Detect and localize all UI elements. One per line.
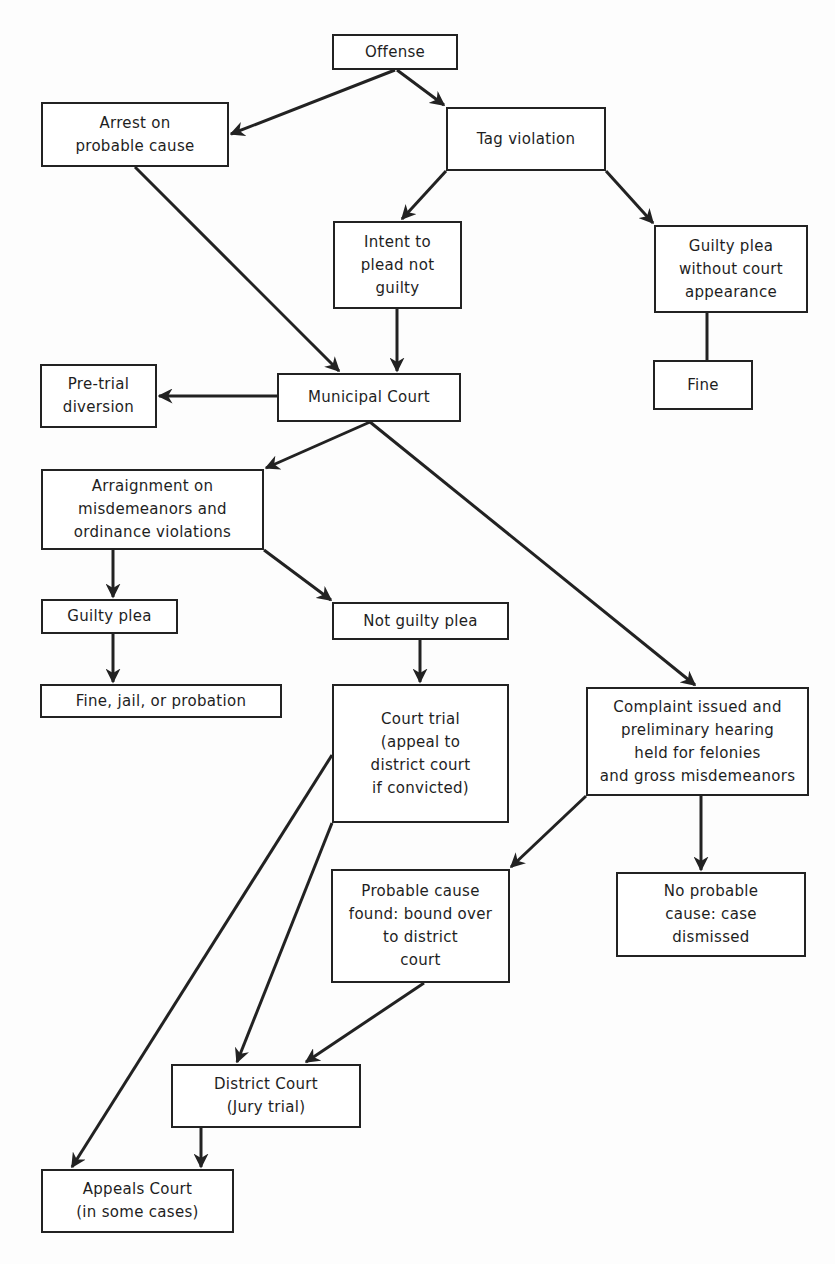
node-fine-jail-or-probation: Fine, jail, or probation — [40, 684, 282, 718]
node-no-probable-cause: No probable cause: case dismissed — [616, 872, 806, 957]
node-tag-violation: Tag violation — [446, 107, 606, 171]
edge-municipal-to-arraignment — [266, 422, 370, 468]
node-court-trial: Court trial (appeal to district court if… — [332, 684, 509, 823]
flowchart-canvas: Offense Arrest on probable cause Tag vio… — [0, 0, 835, 1264]
node-pre-trial-diversion: Pre-trial diversion — [40, 364, 157, 428]
node-offense: Offense — [332, 34, 458, 70]
node-municipal-court: Municipal Court — [277, 373, 461, 422]
node-appeals-court: Appeals Court (in some cases) — [41, 1169, 234, 1233]
edge-tag-to-intent — [402, 171, 446, 219]
edge-arrest-to-municipal — [135, 167, 339, 371]
node-guilty-plea-without-court-appearance: Guilty plea without court appearance — [654, 225, 808, 313]
node-arraignment: Arraignment on misdemeanors and ordinanc… — [41, 469, 264, 550]
node-district-court: District Court (Jury trial) — [171, 1064, 361, 1128]
node-not-guilty-plea: Not guilty plea — [332, 602, 509, 640]
node-fine: Fine — [653, 360, 753, 410]
edge-court_trial-to-district — [237, 823, 332, 1062]
edge-tag-to-guilty_no_court — [606, 171, 653, 223]
edge-complaint-to-probable — [511, 796, 586, 867]
node-guilty-plea: Guilty plea — [41, 599, 178, 634]
node-arrest-on-probable-cause: Arrest on probable cause — [41, 102, 229, 167]
node-complaint-issued: Complaint issued and preliminary hearing… — [586, 687, 809, 796]
edge-arraignment-to-not_guilty — [264, 550, 331, 600]
node-intent-to-plead-not-guilty: Intent to plead not guilty — [333, 221, 462, 309]
node-probable-cause-found: Probable cause found: bound over to dist… — [331, 869, 510, 983]
edge-offense-to-arrest — [231, 70, 395, 134]
edge-offense-to-tag — [397, 70, 444, 105]
edge-probable-to-district — [306, 983, 424, 1062]
